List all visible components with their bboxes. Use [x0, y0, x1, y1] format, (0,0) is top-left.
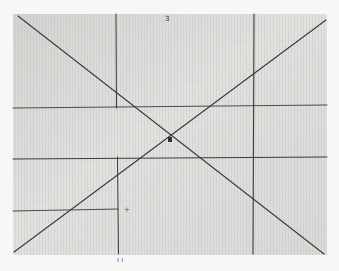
- bottom-marks: ı ı: [117, 256, 123, 264]
- vertical-line-left-upper: [116, 14, 117, 108]
- graph-paper-drawing: 3 + ı ı: [0, 0, 339, 271]
- top-mark: 3: [165, 15, 169, 23]
- center-intersection-mark: [168, 137, 172, 142]
- small-cross-mark: +: [124, 206, 130, 214]
- photo: 3 + ı ı: [0, 0, 339, 271]
